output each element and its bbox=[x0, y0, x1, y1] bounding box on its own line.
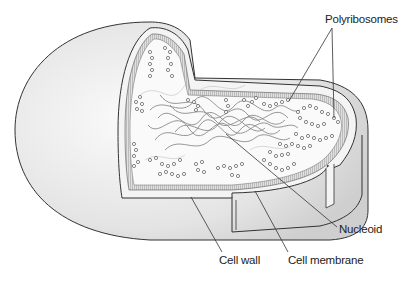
label-nucleoid: Nucleoid bbox=[339, 223, 382, 235]
label-cell-membrane: Cell membrane bbox=[288, 254, 363, 266]
label-cell-wall: Cell wall bbox=[219, 254, 260, 266]
bacterial-cell-illustration bbox=[0, 0, 402, 281]
label-polyribosomes: Polyribosomes bbox=[325, 13, 398, 25]
inner-cut-step bbox=[326, 164, 334, 208]
